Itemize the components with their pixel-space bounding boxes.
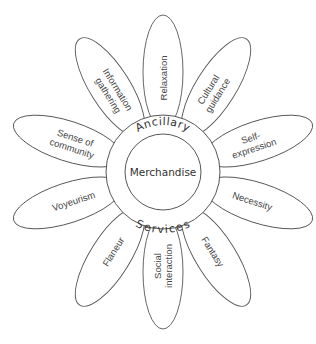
center-label: Merchandise [130,166,197,178]
merchandise-flower-diagram: RelaxationCulturalguidanceSelf-expressio… [0,0,316,344]
petal-label: Relaxation [158,56,169,101]
petal-relaxation: Relaxation [143,15,183,129]
